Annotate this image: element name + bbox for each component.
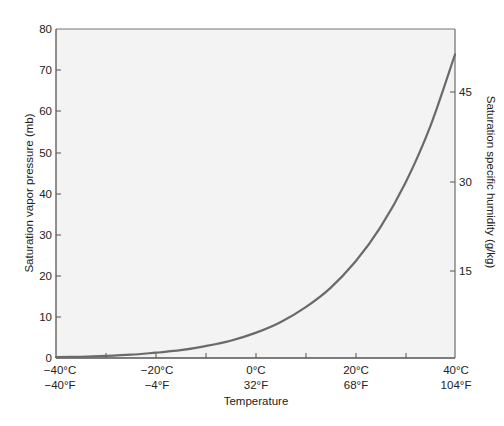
x-tick-c-0: 0°C [246, 364, 265, 376]
y-axis-title: Saturation vapor pressure (mb) [23, 113, 35, 272]
x-axis-title: Temperature [224, 395, 289, 407]
y-tick-50: 50 [39, 147, 52, 159]
x-tick-f-32: 32°F [244, 379, 268, 391]
chart-svg: 0 10 20 30 40 50 60 70 80 45 30 15 −40°C… [0, 0, 504, 426]
plot-area [56, 29, 455, 358]
x-tick-f-68: 68°F [344, 379, 368, 391]
right-y-tick-labels: 45 30 15 [459, 86, 472, 277]
left-y-tick-labels: 0 10 20 30 40 50 60 70 80 [39, 23, 52, 364]
y-tick-70: 70 [39, 64, 52, 76]
y-tick-80: 80 [39, 23, 52, 35]
x-tick-c-neg20: −20°C [141, 364, 173, 376]
y-tick-40: 40 [39, 188, 52, 200]
y2-tick-45: 45 [459, 86, 472, 98]
x-tick-labels-celsius: −40°C −20°C 0°C 20°C 40°C [44, 364, 469, 376]
x-tick-f-104: 104°F [441, 379, 472, 391]
y-tick-60: 60 [39, 105, 52, 117]
x-tick-f-neg4: −4°F [145, 379, 170, 391]
y2-tick-30: 30 [459, 176, 472, 188]
y-tick-30: 30 [39, 229, 52, 241]
y-tick-10: 10 [39, 311, 52, 323]
y-tick-20: 20 [39, 270, 52, 282]
y2-axis-title: Saturation specific humidity (g/kg) [485, 96, 497, 269]
y-tick-0: 0 [46, 352, 52, 364]
x-tick-labels-fahrenheit: −40°F −4°F 32°F 68°F 104°F [44, 379, 471, 391]
x-tick-c-neg40: −40°C [44, 364, 76, 376]
y2-tick-15: 15 [459, 265, 472, 277]
x-tick-c-20: 20°C [343, 364, 369, 376]
x-tick-f-neg40: −40°F [44, 379, 75, 391]
x-tick-c-40: 40°C [443, 364, 469, 376]
